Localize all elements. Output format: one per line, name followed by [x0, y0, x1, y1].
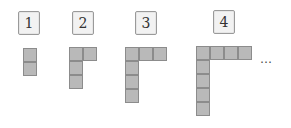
figure-label: 4: [213, 10, 235, 34]
square-tile: [238, 46, 252, 60]
square-tile: [196, 88, 210, 102]
square-tile: [23, 62, 37, 76]
square-tile: [196, 102, 210, 116]
square-tile: [153, 47, 167, 61]
square-tile: [196, 60, 210, 74]
square-tile: [69, 47, 83, 61]
square-tile: [125, 75, 139, 89]
square-tile: [125, 61, 139, 75]
square-tile: [69, 61, 83, 75]
pattern-diagram: 1234…: [0, 0, 291, 128]
square-tile: [196, 46, 210, 60]
square-tile: [125, 47, 139, 61]
square-tile: [196, 74, 210, 88]
figure-label: 3: [135, 11, 157, 35]
square-tile: [224, 46, 238, 60]
square-tile: [210, 46, 224, 60]
square-tile: [83, 47, 97, 61]
figure-label: 2: [72, 11, 94, 35]
square-tile: [125, 89, 139, 103]
square-tile: [69, 75, 83, 89]
figure-label: 1: [18, 11, 40, 35]
continuation-ellipsis: …: [260, 52, 273, 66]
square-tile: [23, 48, 37, 62]
square-tile: [139, 47, 153, 61]
